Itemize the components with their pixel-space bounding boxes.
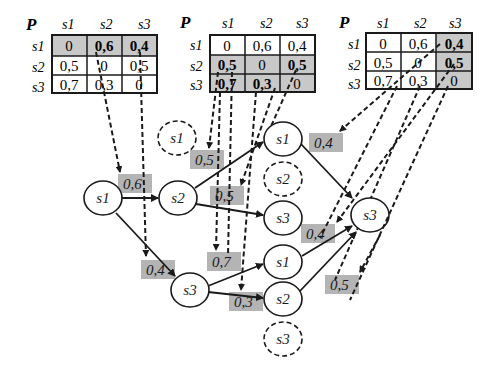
node-label: s3 [183,282,196,298]
cell: 0,6 [95,38,114,54]
cell: 0,5 [130,58,149,74]
node-label: s3 [276,210,289,226]
node-label: s3 [276,331,289,347]
cell: 0,3 [95,77,114,93]
col-header: s2 [100,17,112,32]
col-header: s2 [260,16,272,31]
cell: 0,5 [60,58,79,74]
row-header: s2 [348,58,360,73]
edge-label: 0,4 [314,135,333,151]
cell: 0,5 [445,55,464,71]
col-header: s3 [449,16,461,31]
transition-matrix-1: P s1 s2 s3 s1 s2 s3 0 0,6 0,4 0,5 0 0,5 … [25,15,157,95]
node-label: s2 [276,291,290,307]
node-label: s1 [170,130,183,146]
cell: 0 [293,76,301,92]
row-header: s3 [190,78,202,93]
col-header: s1 [222,16,234,31]
cell: 0,7 [218,76,237,92]
edge-label: 0,5 [215,188,234,204]
row-header: s1 [32,39,44,54]
col-header: s3 [138,17,150,32]
row-header: s1 [190,38,202,53]
col-header: s3 [296,16,308,31]
cell: 0,5 [218,57,237,73]
node-label: s1 [276,131,289,147]
col-header: s1 [377,16,389,31]
row-header: s1 [348,37,360,52]
edge-label: 0,6 [123,176,142,192]
edge-label: 0,4 [146,262,165,278]
node-label: s2 [276,171,290,187]
node-label: s1 [276,254,289,270]
cell: 0 [450,73,458,89]
row-header: s3 [32,80,44,95]
cell: 0,4 [288,38,307,54]
node-label: s1 [96,190,109,206]
cell: 0,3 [409,73,428,89]
cell: 0 [258,57,266,73]
row-header: s3 [348,77,360,92]
node-label: s3 [363,207,376,223]
transition-matrix-3: P s1 s2 s3 s1 s2 s3 0 0,6 0,4 0,5 0 0,5 … [338,13,472,92]
cell: 0,4 [130,38,149,54]
cell: 0,4 [445,36,464,52]
row-header: s2 [190,59,202,74]
row-header: s2 [32,60,44,75]
matrix-label: P [25,15,37,34]
matrix-label: P [338,13,350,32]
state-nodes [84,121,389,356]
col-header: s2 [414,16,426,31]
edge-labels [118,133,359,311]
edge-label: 0,7 [212,254,232,270]
cell: 0,5 [288,57,307,73]
edge-label: 0,5 [195,152,214,168]
matrix-label: P [179,13,191,32]
cell: 0 [414,55,422,71]
cell: 0 [65,38,73,54]
transition-matrix-2: P s1 s2 s3 s1 s2 s3 0 0,6 0,4 0,5 0 0,5 … [179,13,315,93]
cell: 0,6 [409,36,428,52]
cell: 0,7 [60,77,79,93]
edge-label: 0,3 [234,294,253,310]
edge-label: 0,4 [306,226,325,242]
col-header: s1 [62,17,74,32]
cell: 0,6 [253,38,272,54]
cell: 0,3 [253,76,272,92]
edge-label: 0,5 [330,277,349,293]
markov-chain-diagram: P s1 s2 s3 s1 s2 s3 0 0,6 0,4 0,5 0 0,5 … [0,0,489,371]
cell: 0,5 [374,55,393,71]
cell: 0 [100,58,108,74]
cell: 0 [379,36,387,52]
node-label: s2 [171,190,185,206]
cell: 0 [223,38,231,54]
